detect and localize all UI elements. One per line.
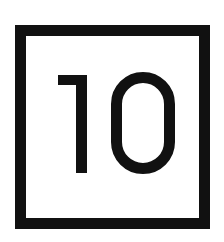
number-ten-icon (0, 0, 224, 242)
digit-zero-icon (117, 78, 170, 169)
digit-one-icon (58, 75, 87, 173)
